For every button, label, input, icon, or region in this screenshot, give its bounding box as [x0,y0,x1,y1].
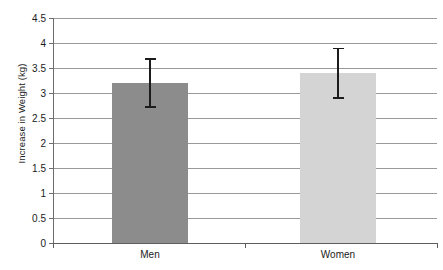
error-bar-cap-bottom [145,106,156,108]
gridline [53,193,437,194]
x-tick-mark [53,243,54,248]
error-bar-cap-top [333,48,344,50]
y-tick-label: 1.5 [16,163,46,174]
gridline [53,18,437,19]
x-tick-mark [245,243,246,248]
y-tick-label: 2.5 [16,113,46,124]
error-bar-cap-bottom [333,97,344,99]
y-tick-label: 1 [16,188,46,199]
y-axis-line [53,18,54,244]
error-bar-men [142,58,158,108]
gridline [53,68,437,69]
y-axis-tick-labels: 00.511.522.533.544.5 [16,0,46,270]
plot-area [53,18,437,243]
error-bar-stem [149,58,151,108]
x-label-women: Women [321,249,355,260]
gridline [53,143,437,144]
y-tick-label: 4 [16,38,46,49]
x-label-men: Men [140,249,159,260]
y-tick-label: 4.5 [16,13,46,24]
y-tick-label: 2 [16,138,46,149]
bar-women [300,73,376,243]
error-bar-stem [337,48,339,99]
y-tick-label: 3.5 [16,63,46,74]
y-tick-label: 0 [16,238,46,249]
error-bar-cap-top [145,58,156,60]
error-bar-women [330,48,346,99]
x-tick-mark [437,243,438,248]
bar-chart: Increase in Weight (kg) 00.511.522.533.5… [0,0,443,270]
gridline [53,93,437,94]
y-tick-label: 3 [16,88,46,99]
gridline [53,168,437,169]
gridline [53,118,437,119]
y-tick-label: 0.5 [16,213,46,224]
gridline [53,218,437,219]
gridline [53,43,437,44]
